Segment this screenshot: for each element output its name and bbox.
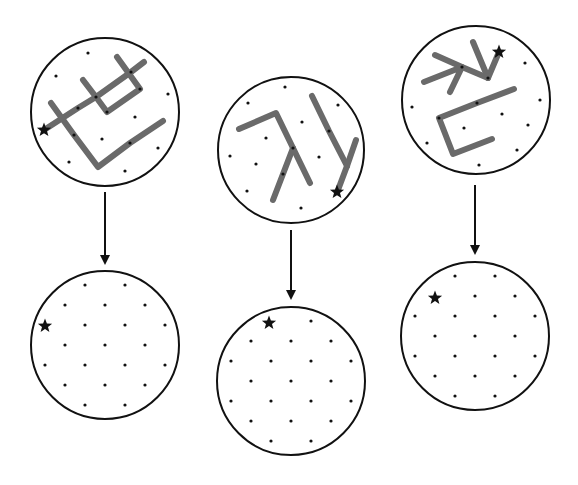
grid-dot [156, 146, 159, 149]
grid-dot [105, 110, 108, 113]
grid-dot [123, 363, 126, 366]
grid-dot [72, 133, 75, 136]
grid-dot [453, 274, 456, 277]
down-arrow-icon [100, 192, 110, 265]
grid-dot [475, 101, 478, 104]
grid-dot [289, 419, 292, 422]
grid-dot [94, 95, 97, 98]
grid-dot [86, 51, 89, 54]
grid-dot [477, 163, 480, 166]
grid-dot [309, 319, 312, 322]
output-circle [31, 271, 179, 419]
grid-dot [309, 359, 312, 362]
grid-dot [453, 394, 456, 397]
grid-dot [413, 314, 416, 317]
grid-dot [100, 137, 103, 140]
diagram-canvas [0, 0, 578, 485]
grid-dot [67, 160, 70, 163]
grid-dot [460, 65, 463, 68]
grid-dot [486, 76, 489, 79]
grid-dot [254, 162, 257, 165]
grid-dot [129, 70, 132, 73]
grid-dot [533, 314, 536, 317]
grid-dot [128, 141, 131, 144]
grid-dot [515, 148, 518, 151]
grid-dot [493, 314, 496, 317]
down-arrow-icon [470, 185, 480, 255]
grid-dot [269, 399, 272, 402]
down-arrow-icon [286, 230, 296, 300]
grid-dot [317, 155, 320, 158]
grid-dot [327, 129, 330, 132]
grid-dot [163, 323, 166, 326]
panel-1 [31, 38, 179, 419]
grid-dot [133, 115, 136, 118]
grid-dot [63, 383, 66, 386]
grid-dot [103, 383, 106, 386]
grid-dot [462, 126, 465, 129]
grid-dot [54, 74, 57, 77]
grid-dot [246, 101, 249, 104]
grid-dot [513, 294, 516, 297]
grid-dot [289, 379, 292, 382]
grid-dot [453, 354, 456, 357]
grid-dot [281, 172, 284, 175]
grid-dot [249, 419, 252, 422]
grid-dot [43, 363, 46, 366]
input-circle [402, 26, 550, 174]
grid-dot [83, 363, 86, 366]
grid-dot [473, 374, 476, 377]
grid-dot [249, 339, 252, 342]
grid-dot [533, 354, 536, 357]
grid-dot [289, 339, 292, 342]
grid-dot [269, 439, 272, 442]
grid-dot [473, 294, 476, 297]
grid-dot [249, 379, 252, 382]
grid-dot [500, 112, 503, 115]
grid-dot [103, 343, 106, 346]
grid-dot [453, 314, 456, 317]
grid-dot [163, 363, 166, 366]
grid-dot [413, 354, 416, 357]
grid-dot [437, 116, 440, 119]
grid-dot [513, 334, 516, 337]
grid-dot [76, 106, 79, 109]
grid-dot [433, 374, 436, 377]
grid-dot [166, 92, 169, 95]
output-circle [217, 307, 365, 455]
grid-dot [123, 283, 126, 286]
grid-dot [283, 85, 286, 88]
grid-dot [229, 359, 232, 362]
grid-dot [300, 120, 303, 123]
grid-dot [299, 206, 302, 209]
grid-dot [228, 154, 231, 157]
output-circle [401, 262, 549, 410]
grid-dot [349, 359, 352, 362]
grid-dot [349, 399, 352, 402]
grid-dot [83, 323, 86, 326]
grid-dot [291, 146, 294, 149]
grid-dot [103, 303, 106, 306]
panel-3 [401, 26, 550, 410]
grid-dot [329, 419, 332, 422]
input-circle [31, 38, 179, 186]
grid-dot [473, 334, 476, 337]
grid-dot [63, 303, 66, 306]
input-circle [218, 77, 364, 223]
grid-dot [264, 136, 267, 139]
grid-dot [329, 339, 332, 342]
grid-dot [143, 383, 146, 386]
grid-dot [138, 87, 141, 90]
grid-dot [143, 343, 146, 346]
grid-dot [83, 403, 86, 406]
grid-dot [336, 103, 339, 106]
grid-dot [309, 399, 312, 402]
grid-dot [425, 141, 428, 144]
grid-dot [329, 379, 332, 382]
grid-dot [493, 394, 496, 397]
grid-dot [513, 374, 516, 377]
grid-dot [63, 343, 66, 346]
grid-dot [493, 354, 496, 357]
grid-dot [538, 98, 541, 101]
grid-dot [245, 189, 248, 192]
